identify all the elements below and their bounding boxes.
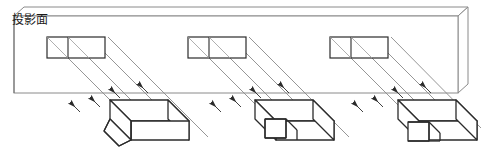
solid-2 <box>255 100 334 140</box>
projection-outlines <box>47 37 388 58</box>
projection-1 <box>47 37 105 58</box>
projection-plane-label: 投影面 <box>12 13 48 27</box>
projection-diagram: 投影面 <box>0 0 481 166</box>
plane-top-face <box>14 7 468 16</box>
projection-3 <box>330 37 388 58</box>
projection-2 <box>188 37 246 58</box>
plane-right-face <box>458 7 468 93</box>
solid-1 <box>104 100 189 146</box>
solid-3 <box>398 100 477 141</box>
diagram-canvas <box>0 0 481 166</box>
